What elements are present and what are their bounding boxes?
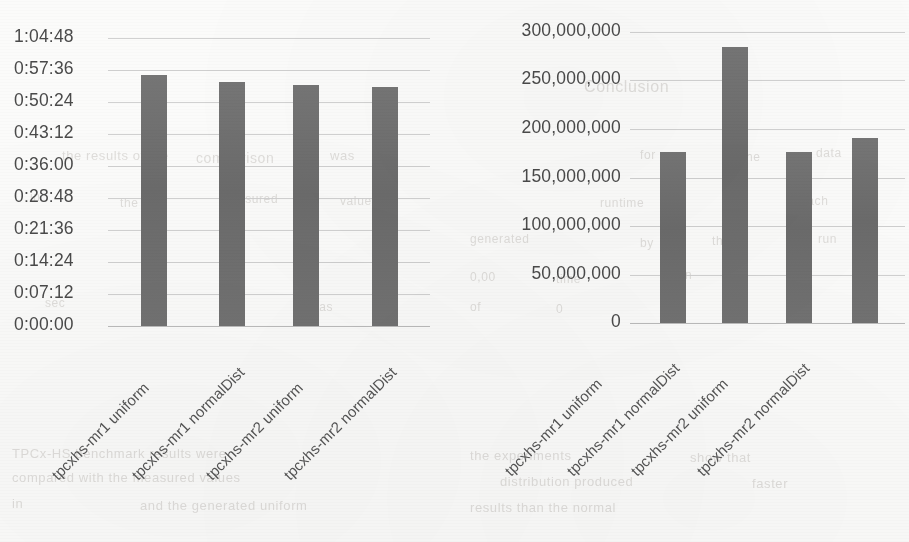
y-axis-tick-label: 0:14:24 bbox=[14, 250, 74, 271]
y-axis-tick-label: 1:04:48 bbox=[14, 26, 74, 47]
gridline bbox=[630, 32, 905, 33]
bleedthrough-text: in bbox=[12, 496, 23, 511]
x-axis-tick-label: tpcxhs-mr2 normalDist bbox=[280, 363, 400, 483]
bleedthrough-text: and the generated uniform bbox=[140, 498, 308, 513]
bleedthrough-text: faster bbox=[752, 476, 788, 491]
bar-chart-records: 300,000,000250,000,000200,000,000150,000… bbox=[455, 0, 909, 542]
bar bbox=[722, 47, 748, 323]
axis-baseline bbox=[630, 323, 905, 324]
bar bbox=[660, 152, 686, 323]
x-axis-tick-label: tpcxhs-mr1 normalDist bbox=[563, 359, 683, 479]
y-axis-tick-label: 0:00:00 bbox=[14, 314, 74, 335]
y-axis-tick-label: 0:07:12 bbox=[14, 282, 74, 303]
y-axis-tick-label: 0:43:12 bbox=[14, 122, 74, 143]
y-axis-tick-label: 0 bbox=[421, 311, 621, 332]
y-axis-tick-label: 0:21:36 bbox=[14, 218, 74, 239]
gridline bbox=[630, 80, 905, 81]
y-axis-tick-label: 0:57:36 bbox=[14, 58, 74, 79]
y-axis-tick-label: 100,000,000 bbox=[421, 214, 621, 235]
gridline bbox=[630, 129, 905, 130]
y-axis-tick-label: 0:36:00 bbox=[14, 154, 74, 175]
y-axis-tick-label: 200,000,000 bbox=[421, 117, 621, 138]
bar bbox=[219, 82, 245, 326]
gridline bbox=[108, 70, 430, 71]
bar bbox=[372, 87, 398, 326]
y-axis-tick-label: 300,000,000 bbox=[421, 20, 621, 41]
bar bbox=[852, 138, 878, 323]
x-axis-tick-label: tpcxhs-mr2 normalDist bbox=[693, 359, 813, 479]
gridline bbox=[108, 38, 430, 39]
y-axis-tick-label: 50,000,000 bbox=[421, 263, 621, 284]
scanned-page: the results of thecomparisonwasinthemeas… bbox=[0, 0, 909, 542]
bleedthrough-text: TPCx-HS benchmark results were bbox=[12, 446, 227, 461]
y-axis-tick-label: 250,000,000 bbox=[421, 68, 621, 89]
bleedthrough-text: distribution produced bbox=[500, 474, 633, 489]
bar bbox=[293, 85, 319, 326]
y-axis-tick-label: 0:28:48 bbox=[14, 186, 74, 207]
axis-baseline bbox=[108, 326, 430, 327]
y-axis-tick-label: 150,000,000 bbox=[421, 166, 621, 187]
y-axis-tick-label: 0:50:24 bbox=[14, 90, 74, 111]
plot-area-right bbox=[630, 32, 905, 323]
plot-area-left bbox=[108, 38, 430, 326]
bar-chart-runtime: 1:04:480:57:360:50:240:43:120:36:000:28:… bbox=[0, 0, 455, 542]
bar bbox=[786, 152, 812, 323]
bleedthrough-text: results than the normal bbox=[470, 500, 616, 515]
bar bbox=[141, 75, 167, 326]
